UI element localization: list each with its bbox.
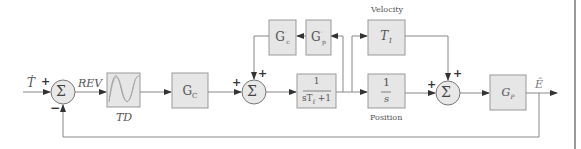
output-label: Ê <box>535 78 543 91</box>
sum2-plus-top: + <box>258 67 267 80</box>
td-label: TD <box>116 111 132 124</box>
integrator-numerator: 1 <box>368 76 405 89</box>
sum2-symbol: Σ <box>247 83 257 99</box>
gp-prime-label: G′p <box>306 30 331 45</box>
sum3-plus-top: + <box>453 67 462 80</box>
sum1-minus-sign: − <box>50 101 60 115</box>
integrator-denominator: s <box>368 93 405 104</box>
filter-numerator: 1 <box>297 76 336 86</box>
rev-label: REV <box>78 77 102 90</box>
sum1-plus-sign: + <box>41 75 50 88</box>
sum3-symbol: Σ <box>441 84 451 100</box>
sum3-plus-left: + <box>427 78 436 91</box>
gc-prime-label: G′c <box>269 30 296 45</box>
branch-to-t1-line <box>352 36 367 92</box>
t1-label: T1 <box>368 29 405 45</box>
position-caption: Position <box>370 113 402 122</box>
velocity-caption: Velocity <box>371 5 403 14</box>
gc-block-label: GC <box>172 84 208 100</box>
gp-block-label: GP <box>490 86 526 100</box>
filter-denominator: sTf +1 <box>297 93 336 105</box>
input-label: Ṫ <box>27 76 35 90</box>
t1-to-sum3-line <box>405 36 448 80</box>
td-block <box>107 73 140 107</box>
block-diagram <box>0 0 581 149</box>
sum2-plus-left: + <box>232 76 241 89</box>
sum1-symbol: Σ <box>56 83 66 99</box>
